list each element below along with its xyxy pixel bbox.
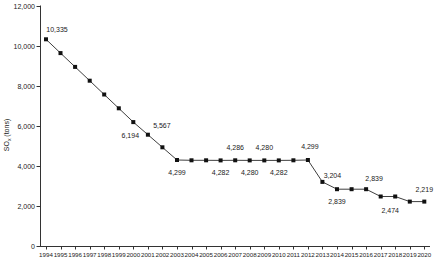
y-tick-label: 12,000: [14, 3, 36, 10]
data-point-marker: [422, 200, 426, 204]
data-point-marker: [219, 158, 223, 162]
x-tick-label: 2013: [316, 251, 330, 258]
data-point-marker: [160, 145, 164, 149]
x-tick-label: 1997: [83, 251, 97, 258]
data-point-marker: [102, 93, 106, 97]
y-tick-label: 0: [31, 243, 35, 250]
x-tick-label: 2018: [388, 251, 402, 258]
x-tick-label: 2014: [330, 251, 344, 258]
x-tick-label: 2008: [243, 251, 257, 258]
data-point-marker: [262, 158, 266, 162]
data-point-marker: [59, 51, 63, 55]
data-point-label: 4,299: [168, 169, 186, 176]
y-tick-label: 4,000: [17, 163, 35, 170]
x-tick-label: 1994: [39, 251, 53, 258]
x-tick-label: 2003: [170, 251, 184, 258]
data-point-marker: [190, 158, 194, 162]
data-point-label: 2,474: [381, 207, 399, 214]
data-point-marker: [248, 158, 252, 162]
data-point-label: 4,299: [301, 143, 319, 150]
data-point-marker: [364, 187, 368, 191]
data-point-marker: [233, 158, 237, 162]
data-point-label: 4,282: [270, 169, 288, 176]
data-point-marker: [350, 187, 354, 191]
x-tick-label: 2005: [199, 251, 213, 258]
chart-canvas: 02,0004,0006,0008,00010,00012,0001994199…: [0, 0, 438, 260]
x-tick-label: 2006: [214, 251, 228, 258]
x-tick-label: 2009: [257, 251, 271, 258]
data-point-marker: [175, 158, 179, 162]
y-tick-label: 10,000: [14, 43, 36, 50]
x-tick-label: 2012: [301, 251, 315, 258]
x-tick-label: 1996: [68, 251, 82, 258]
y-tick-label: 2,000: [17, 203, 35, 210]
x-tick-label: 2001: [141, 251, 155, 258]
x-tick-label: 1995: [54, 251, 68, 258]
x-tick-label: 2002: [156, 251, 170, 258]
x-tick-label: 1999: [112, 251, 126, 258]
data-point-marker: [204, 158, 208, 162]
y-tick-label: 6,000: [17, 123, 35, 130]
x-tick-label: 2007: [228, 251, 242, 258]
data-point-marker: [131, 120, 135, 124]
data-point-marker: [408, 200, 412, 204]
data-point-marker: [277, 158, 281, 162]
x-tick-label: 2017: [374, 251, 388, 258]
x-tick-label: 2019: [403, 251, 417, 258]
x-tick-label: 2010: [272, 251, 286, 258]
data-point-marker: [335, 187, 339, 191]
x-tick-label: 2015: [345, 251, 359, 258]
y-axis-title: SOx (tons): [3, 119, 12, 151]
data-point-marker: [117, 106, 121, 110]
data-point-label: 4,286: [226, 144, 244, 151]
data-point-label: 10,335: [46, 26, 68, 33]
x-tick-label: 2016: [359, 251, 373, 258]
data-point-marker: [379, 195, 383, 199]
data-point-marker: [88, 79, 92, 83]
data-point-label: 4,280: [241, 169, 259, 176]
data-point-marker: [393, 195, 397, 199]
data-point-label: 4,282: [212, 169, 230, 176]
x-tick-label: 1998: [97, 251, 111, 258]
data-point-label: 5,567: [153, 122, 171, 129]
data-point-marker: [44, 37, 48, 41]
y-tick-label: 8,000: [17, 83, 35, 90]
sox-emissions-line-chart: 02,0004,0006,0008,00010,00012,0001994199…: [0, 0, 438, 260]
data-point-label: 2,839: [328, 198, 346, 205]
data-point-marker: [73, 65, 77, 69]
data-point-marker: [306, 158, 310, 162]
x-tick-label: 2011: [287, 251, 301, 258]
data-point-marker: [320, 180, 324, 184]
data-point-label: 3,204: [324, 172, 342, 179]
x-tick-label: 2020: [417, 251, 431, 258]
data-point-label: 4,280: [256, 144, 274, 151]
data-point-marker: [291, 158, 295, 162]
x-tick-label: 2004: [185, 251, 199, 258]
data-point-label: 2,839: [365, 175, 383, 182]
x-tick-label: 2000: [126, 251, 140, 258]
data-point-label: 6,194: [122, 132, 140, 139]
data-point-label: 2,219: [416, 186, 434, 193]
data-point-marker: [146, 133, 150, 137]
